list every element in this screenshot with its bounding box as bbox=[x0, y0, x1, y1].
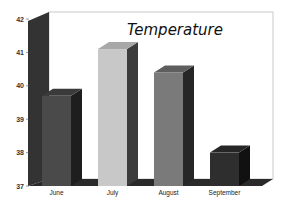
y-axis: 373839404142 bbox=[16, 16, 29, 190]
bar-front bbox=[154, 72, 183, 186]
bar-august bbox=[154, 65, 194, 186]
bar-side bbox=[183, 65, 194, 186]
x-category-label: June bbox=[49, 189, 63, 196]
temperature-chart: 373839404142 JuneJulyAugustSeptember Tem… bbox=[0, 0, 287, 211]
bar-september bbox=[210, 146, 250, 186]
bar-june bbox=[42, 89, 82, 186]
bar-front bbox=[42, 96, 71, 186]
chart-title: Temperature bbox=[127, 21, 223, 39]
y-tick-label: 39 bbox=[16, 116, 24, 123]
x-axis: JuneJulyAugustSeptember bbox=[49, 189, 241, 197]
x-category-label: August bbox=[158, 189, 178, 197]
y-tick-label: 42 bbox=[16, 16, 24, 23]
bar-front bbox=[98, 49, 127, 186]
y-tick-label: 37 bbox=[16, 183, 24, 190]
bar-side bbox=[239, 146, 250, 186]
x-category-label: July bbox=[107, 189, 119, 197]
y-tick-label: 38 bbox=[16, 149, 24, 156]
y-tick-label: 40 bbox=[16, 82, 24, 89]
y-tick-label: 41 bbox=[16, 49, 24, 56]
bar-side bbox=[71, 89, 82, 186]
bar-side bbox=[127, 42, 138, 186]
x-category-label: September bbox=[209, 189, 242, 197]
bar-front bbox=[210, 153, 239, 186]
bar-july bbox=[98, 42, 138, 186]
